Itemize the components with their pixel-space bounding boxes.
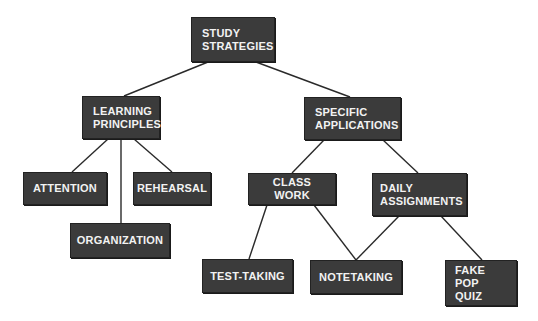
concept-map: STUDY STRATEGIES LEARNING PRINCIPLES SPE…: [0, 0, 538, 321]
node-organization: ORGANIZATION: [70, 223, 170, 258]
node-test-taking: TEST-TAKING: [202, 259, 293, 293]
node-notetaking: NOTETAKING: [310, 260, 402, 294]
node-attention: ATTENTION: [23, 172, 107, 205]
edge-classwork-notetaking: [314, 205, 356, 260]
node-daily-assignments: DAILY ASSIGNMENTS: [372, 173, 467, 216]
edge-root-learning: [124, 62, 208, 96]
node-specific-applications: SPECIFIC APPLICATIONS: [304, 97, 401, 140]
edge-specific-daily: [383, 140, 418, 173]
edge-daily-notetaking: [356, 216, 399, 260]
edge-classwork-testtaking: [249, 205, 267, 259]
node-rehearsal: REHEARSAL: [133, 172, 211, 205]
node-fake-pop-quiz: FAKE POP QUIZ: [445, 260, 517, 306]
node-study-strategies: STUDY STRATEGIES: [191, 17, 275, 62]
edge-daily-fakepopquiz: [441, 216, 482, 260]
edge-root-specific: [256, 62, 350, 97]
node-learning-principles: LEARNING PRINCIPLES: [82, 96, 160, 139]
edge-learning-rehearsal: [134, 139, 172, 172]
edge-learning-attention: [72, 139, 108, 172]
node-class-work: CLASS WORK: [248, 173, 336, 205]
edge-specific-classwork: [292, 140, 324, 173]
